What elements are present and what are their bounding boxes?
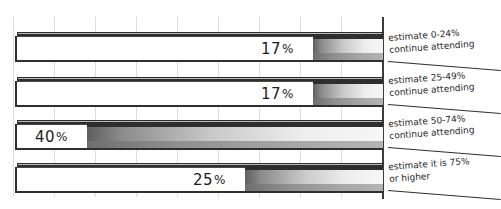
leader-line <box>388 61 501 71</box>
bar-value-number: 25 <box>193 171 213 189</box>
bar-value-label: 17% <box>261 36 294 62</box>
bar-top-highlight <box>18 33 382 34</box>
bar-row: 17% <box>15 77 383 109</box>
category-label: estimate it is 75% or higher <box>388 156 471 185</box>
bar-top-highlight <box>18 164 382 165</box>
bar-gradient-top-edge <box>313 36 383 39</box>
bar-row: 17% <box>15 32 383 64</box>
bar-value-label: 17% <box>261 81 294 107</box>
bar-value-number: 17 <box>261 85 281 103</box>
bar-gradient-shadow <box>313 98 383 105</box>
bar-value-number: 40 <box>35 128 55 146</box>
bar-gradient-shadow <box>245 184 383 191</box>
bar-gradient-shadow <box>87 141 383 148</box>
horizontal-bar-chart: 17% 17% 40% 25 <box>0 0 501 209</box>
bar-value-label: 40% <box>35 124 68 150</box>
bar-top-highlight <box>18 121 382 122</box>
bar-body <box>15 81 383 107</box>
bar-body <box>15 124 383 150</box>
percent-symbol: % <box>282 87 294 101</box>
bar-gradient-shadow <box>313 53 383 60</box>
category-label: estimate 50-74% continue attending <box>388 113 475 142</box>
percent-symbol: % <box>282 42 294 56</box>
bar-gradient-top-edge <box>245 167 383 170</box>
bar-gradient-top-edge <box>87 124 383 127</box>
category-label: estimate 25-49% continue attending <box>388 70 475 99</box>
bar-value-number: 17 <box>261 40 281 58</box>
percent-symbol: % <box>214 173 226 187</box>
bar-value-label: 25% <box>193 167 226 193</box>
leader-line <box>388 190 501 200</box>
leader-line <box>388 147 501 157</box>
bar-row: 25% <box>15 163 383 195</box>
percent-symbol: % <box>56 130 68 144</box>
bar-top-highlight <box>18 78 382 79</box>
bar-gradient-top-edge <box>313 81 383 84</box>
category-label: estimate 0-24% continue attending <box>388 27 475 56</box>
gridline-vertical <box>13 17 14 197</box>
leader-line <box>388 104 501 114</box>
bar-row: 40% <box>15 120 383 152</box>
bar-body <box>15 36 383 62</box>
